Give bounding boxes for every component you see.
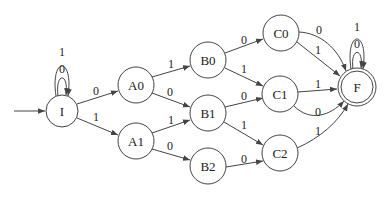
edge-B0-C0: 0 bbox=[225, 33, 263, 53]
svg-text:B2: B2 bbox=[200, 159, 215, 174]
svg-text:A1: A1 bbox=[128, 134, 144, 149]
edge-A1-B2: 0 bbox=[152, 139, 190, 160]
node-A0: A0 bbox=[118, 67, 154, 103]
node-B1: B1 bbox=[190, 95, 226, 131]
svg-text:1: 1 bbox=[315, 124, 321, 138]
svg-text:1: 1 bbox=[315, 77, 321, 91]
svg-text:1: 1 bbox=[241, 62, 247, 76]
edge-C0-F-0: 0 bbox=[299, 23, 346, 71]
node-B0: B0 bbox=[190, 42, 226, 78]
node-B2: B2 bbox=[190, 148, 226, 184]
edge-B0-C1: 1 bbox=[225, 62, 263, 86]
svg-text:0: 0 bbox=[241, 89, 247, 103]
svg-text:F: F bbox=[353, 80, 360, 95]
svg-text:C0: C0 bbox=[273, 26, 288, 41]
edge-C1-F-0: 0 bbox=[294, 101, 344, 119]
edge-A1-B1: 1 bbox=[152, 113, 190, 133]
svg-text:0: 0 bbox=[316, 23, 322, 37]
svg-text:0: 0 bbox=[315, 105, 321, 119]
svg-text:1: 1 bbox=[241, 118, 247, 132]
edge-I-A0: 0 bbox=[77, 84, 118, 104]
svg-text:0: 0 bbox=[241, 152, 247, 166]
edge-F-F-0: 0 bbox=[353, 37, 362, 69]
svg-text:B0: B0 bbox=[200, 53, 215, 68]
svg-text:0: 0 bbox=[241, 33, 247, 47]
svg-text:1: 1 bbox=[93, 110, 99, 124]
node-C1: C1 bbox=[262, 76, 298, 112]
edge-I-A1: 1 bbox=[77, 110, 118, 135]
svg-text:1: 1 bbox=[168, 57, 174, 71]
svg-text:0: 0 bbox=[59, 62, 65, 76]
svg-text:B1: B1 bbox=[200, 106, 215, 121]
svg-text:0: 0 bbox=[354, 37, 360, 51]
node-A1: A1 bbox=[118, 123, 154, 159]
edge-B1-C1: 0 bbox=[225, 89, 263, 107]
edge-C0-F-1: 1 bbox=[297, 42, 340, 76]
svg-text:0: 0 bbox=[93, 84, 99, 98]
edge-C1-F-1: 1 bbox=[298, 77, 337, 92]
svg-text:C2: C2 bbox=[272, 146, 287, 161]
node-C0: C0 bbox=[263, 15, 299, 51]
svg-text:1: 1 bbox=[59, 45, 65, 59]
node-I: I bbox=[46, 95, 78, 127]
svg-text:0: 0 bbox=[167, 85, 173, 99]
edge-A0-B1: 0 bbox=[152, 85, 190, 107]
svg-text:A0: A0 bbox=[128, 78, 144, 93]
edge-B2-C2: 0 bbox=[226, 152, 263, 167]
svg-text:0: 0 bbox=[167, 139, 173, 153]
edge-B1-C2: 1 bbox=[224, 118, 263, 145]
svg-text:C1: C1 bbox=[272, 87, 287, 102]
node-F-accept: F bbox=[338, 68, 376, 106]
svg-text:1: 1 bbox=[315, 43, 321, 57]
svg-text:1: 1 bbox=[354, 20, 360, 34]
svg-text:1: 1 bbox=[168, 113, 174, 127]
state-diagram: 1 0 0 1 1 0 1 0 0 1 bbox=[0, 0, 390, 198]
svg-text:I: I bbox=[60, 104, 64, 119]
node-C2: C2 bbox=[262, 135, 298, 171]
edge-C2-F-1: 1 bbox=[297, 104, 348, 148]
edge-A0-B0: 1 bbox=[152, 57, 190, 77]
